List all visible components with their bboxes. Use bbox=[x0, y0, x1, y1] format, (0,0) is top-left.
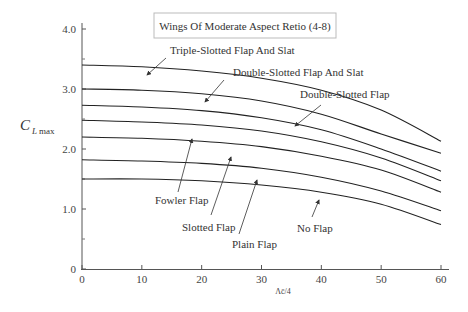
annotation-label: Double-Slotted Flap bbox=[300, 88, 390, 100]
x-tick-label: 20 bbox=[196, 273, 208, 285]
annotation-arrow-icon bbox=[178, 139, 192, 192]
y-tick-label: 2.0 bbox=[62, 143, 76, 155]
y-tick-label: 1.0 bbox=[62, 203, 76, 215]
annotation-arrow-icon bbox=[312, 200, 319, 217]
annotation-label: Fowler Flap bbox=[155, 194, 209, 206]
x-tick-label: 40 bbox=[316, 273, 328, 285]
y-tick-label: 0 bbox=[71, 263, 77, 275]
curve-slotted-flap bbox=[82, 137, 441, 192]
y-tick-label: 4.0 bbox=[62, 23, 76, 35]
x-tick-label: 30 bbox=[256, 273, 268, 285]
y-axis-label: C Lmax bbox=[20, 117, 55, 136]
y-tick-label: 3.0 bbox=[62, 83, 76, 95]
x-tick-label: 0 bbox=[79, 273, 85, 285]
chart-title: Wings Of Moderate Aspect Retio (4-8) bbox=[159, 20, 331, 33]
x-ticks: 0102030405060 bbox=[79, 265, 447, 285]
annotation-label: No Flap bbox=[297, 222, 333, 234]
y-axis-label-sub: Lmax bbox=[31, 126, 55, 136]
x-tick-label: 10 bbox=[136, 273, 148, 285]
curve-no-flap bbox=[82, 179, 441, 225]
annotation-label: Double-Slotted Flap And Slat bbox=[233, 66, 363, 78]
annotation-label: Slotted Flap bbox=[182, 221, 236, 233]
x-tick-label: 50 bbox=[376, 273, 388, 285]
y-axis-label-main: C bbox=[20, 117, 31, 133]
chart-title-box: Wings Of Moderate Aspect Retio (4-8) bbox=[154, 13, 336, 38]
annotation-arrow-icon bbox=[205, 80, 224, 102]
x-axis-label: Λc̄/4 bbox=[275, 287, 291, 296]
x-tick-label: 60 bbox=[436, 273, 448, 285]
annotation-label: Triple-Slotted Flap And Slat bbox=[170, 44, 295, 56]
cl-max-chart: Wings Of Moderate Aspect Retio (4-8) 01.… bbox=[0, 0, 468, 312]
annotation-arrow-icon bbox=[239, 180, 257, 234]
annotation-arrow-icon bbox=[147, 58, 166, 75]
annotation-label: Plain Flap bbox=[232, 238, 277, 250]
annotation-arrow-icon bbox=[211, 157, 231, 215]
